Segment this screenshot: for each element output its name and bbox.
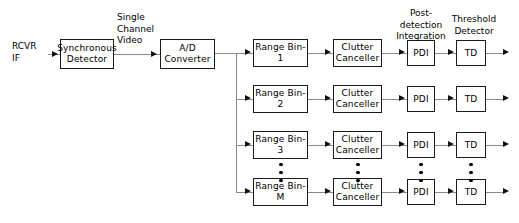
block-range-bin-m[interactable]: Range Bin-M xyxy=(253,178,308,206)
arrow-range-bin-3-to-clutter-3 xyxy=(325,141,331,147)
arrow-range-bin-m-to-clutter-m xyxy=(325,188,331,194)
distribution-bus-vertical xyxy=(236,53,237,193)
arrow-pdi-m-to-td-m xyxy=(448,188,454,194)
block-range-bin-2[interactable]: Range Bin-2 xyxy=(253,85,308,113)
arrow-pdi-1-to-td-1 xyxy=(448,49,454,55)
arrow-bus-to-range-bin-1 xyxy=(245,49,251,55)
arrow-pdi-3-to-td-3 xyxy=(448,141,454,147)
block-td-2[interactable]: TD xyxy=(456,86,486,112)
block-clutter-canceller-2[interactable]: Clutter Canceller xyxy=(333,85,382,113)
block-clutter-canceller-3[interactable]: Clutter Canceller xyxy=(333,131,382,159)
arrow-bus-to-range-bin-m xyxy=(245,188,251,194)
arrow-td-2-output xyxy=(503,95,509,101)
block-synchronous-detector[interactable]: Synchronous Detector xyxy=(60,39,114,69)
block-pdi-2[interactable]: PDI xyxy=(407,86,435,112)
block-pdi-3[interactable]: PDI xyxy=(407,132,435,158)
block-td-1[interactable]: TD xyxy=(456,40,486,66)
arrow-clutter-1-to-pdi-1 xyxy=(399,49,405,55)
block-td-3[interactable]: TD xyxy=(456,132,486,158)
block-ad-converter[interactable]: A/D Converter xyxy=(160,39,215,69)
block-clutter-canceller-1[interactable]: Clutter Canceller xyxy=(333,39,382,67)
block-pdi-1[interactable]: PDI xyxy=(407,40,435,66)
ellipsis-range-bin-column xyxy=(279,163,283,182)
arrow-pdi-2-to-td-2 xyxy=(448,95,454,101)
input-label-rcvr-if: RCVR IF xyxy=(12,41,56,64)
arrow-td-1-output xyxy=(503,49,509,55)
arrow-clutter-3-to-pdi-3 xyxy=(399,141,405,147)
connector-ad-to-bus xyxy=(215,53,237,54)
arrow-clutter-m-to-pdi-m xyxy=(399,188,405,194)
block-clutter-canceller-m[interactable]: Clutter Canceller xyxy=(333,178,382,206)
arrow-sync-detector-to-ad xyxy=(151,51,157,57)
block-pdi-m[interactable]: PDI xyxy=(407,179,435,205)
arrow-bus-to-range-bin-2 xyxy=(245,95,251,101)
ellipsis-td-column xyxy=(469,163,473,182)
header-threshold-detector: Threshold Detector xyxy=(444,14,504,37)
label-single-channel-video: Single Channel Video xyxy=(117,12,167,47)
arrow-range-bin-1-to-clutter-1 xyxy=(325,49,331,55)
block-range-bin-1[interactable]: Range Bin-1 xyxy=(253,39,308,67)
block-range-bin-3[interactable]: Range Bin-3 xyxy=(253,131,308,159)
block-diagram-canvas: RCVR IF Synchronous Detector Single Chan… xyxy=(0,0,519,223)
arrow-range-bin-2-to-clutter-2 xyxy=(325,95,331,101)
block-td-m[interactable]: TD xyxy=(456,179,486,205)
arrow-td-m-output xyxy=(503,188,509,194)
ellipsis-pdi-column xyxy=(419,163,423,182)
arrow-clutter-2-to-pdi-2 xyxy=(399,95,405,101)
arrow-td-3-output xyxy=(503,141,509,147)
ellipsis-clutter-canceller-column xyxy=(356,163,360,182)
arrow-bus-to-range-bin-3 xyxy=(245,141,251,147)
